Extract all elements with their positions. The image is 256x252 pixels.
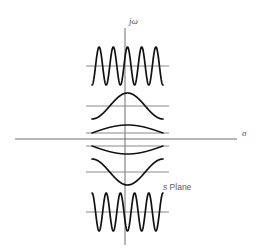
jomega-axis-label: jω [128, 16, 138, 26]
wave-upper-shallow-arc [92, 125, 163, 133]
s-plane-label: s Plane [163, 182, 192, 192]
sigma-axis-label: σ [242, 128, 247, 138]
s-plane-diagram: jω σ s Plane [0, 0, 256, 252]
s-plane-label-rest: Plane [167, 182, 191, 192]
figure-root: jω σ s Plane [0, 0, 256, 252]
wave-lower-shallow-arc [92, 146, 163, 154]
